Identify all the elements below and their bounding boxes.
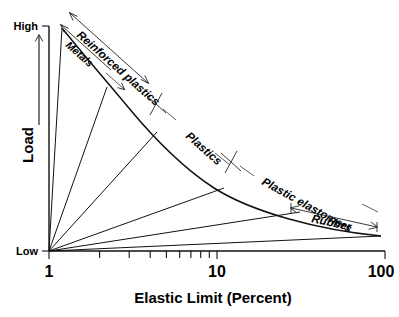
separator-mark-2 [221,151,241,173]
y-axis-high-label: High [14,20,39,32]
x-axis-title: Elastic Limit (Percent) [134,289,292,306]
elastic-limit-load-chart: Reinforced plastics Metals [0,0,399,317]
label-plastics: Plastics [184,130,225,168]
fan-line-plastics [49,132,157,251]
x-tick-label-100: 100 [368,263,395,280]
y-axis-low-label: Low [16,245,38,257]
fan-line-plastic-elastomers [49,188,224,251]
x-axis-ticks [49,251,385,259]
annotation-plastics: Plastics [163,109,230,167]
load-direction-arrow [35,35,43,126]
fan-line-reinforced-plastics [49,28,62,251]
chart-figure: Reinforced plastics Metals [0,0,399,317]
x-tick-label-10: 10 [208,263,226,280]
x-tick-label-1: 1 [45,263,54,280]
fan-line-metals [49,87,107,251]
y-axis-title: Load [19,127,36,163]
